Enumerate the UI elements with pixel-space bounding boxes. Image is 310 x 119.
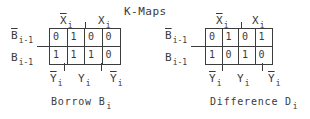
bottom-label-y-bar: Yi xyxy=(110,72,122,85)
col-label-x-bar: Xi xyxy=(216,14,228,27)
caption-difference: Difference Di xyxy=(210,96,298,107)
bottom-tick xyxy=(64,63,65,71)
col-label-x: Xi xyxy=(252,14,264,27)
cell: 1 xyxy=(50,47,68,65)
cell: 0 xyxy=(103,47,121,65)
bottom-label-y: Yi xyxy=(78,72,90,85)
cell: 0 xyxy=(206,29,223,47)
bottom-tick xyxy=(262,63,263,71)
cell: 0 xyxy=(239,29,256,47)
kmap-borrow: Xi Xi Bi-1 Bi-1 0 1 0 0 1 1 1 0 Yi Yi Yi… xyxy=(0,0,155,119)
bottom-label-y-bar: Yi xyxy=(50,72,62,85)
col-label-x-bar: Xi xyxy=(60,14,72,27)
row-group-tick xyxy=(37,46,49,47)
cell: 0 xyxy=(223,47,240,65)
row-label-b-bar: Bi-1 xyxy=(165,29,187,42)
cell: 0 xyxy=(256,47,273,65)
bottom-label-y: Yi xyxy=(237,72,249,85)
caption-borrow: Borrow Bi xyxy=(51,96,112,107)
kmap-difference: Xi Xi Bi-1 Bi-1 0 1 0 1 1 0 1 0 Yi Yi Yi… xyxy=(155,0,310,119)
bottom-label-y-bar: Yi xyxy=(268,72,280,85)
cell: 1 xyxy=(256,29,273,47)
row-label-b-bar: Bi-1 xyxy=(11,29,33,42)
col-label-x: Xi xyxy=(98,14,110,27)
cell: 1 xyxy=(223,29,240,47)
kmap-grid: 0 1 0 1 1 0 1 0 xyxy=(205,28,273,65)
cell: 0 xyxy=(103,29,121,47)
cell: 1 xyxy=(68,47,86,65)
row-label-b: Bi-1 xyxy=(165,51,187,64)
cell: 1 xyxy=(68,29,86,47)
cell: 0 xyxy=(85,29,103,47)
bottom-label-y-bar: Yi xyxy=(209,72,221,85)
row-group-tick xyxy=(191,46,205,47)
bottom-tick xyxy=(222,63,223,71)
cell: 1 xyxy=(206,47,223,65)
kmap-grid: 0 1 0 0 1 1 1 0 xyxy=(49,28,121,65)
cell: 0 xyxy=(50,29,68,47)
row-label-b: Bi-1 xyxy=(11,51,33,64)
cell: 1 xyxy=(239,47,256,65)
bottom-tick xyxy=(101,63,102,71)
cell: 1 xyxy=(85,47,103,65)
